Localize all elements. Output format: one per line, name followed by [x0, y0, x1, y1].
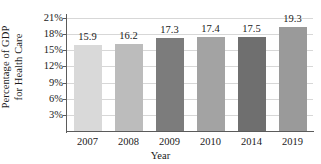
- bar-value-label: 15.9: [68, 32, 108, 43]
- bar: [279, 27, 307, 131]
- gridline: [67, 99, 313, 100]
- y-axis-tickmark: [63, 34, 67, 35]
- y-axis-tick-label: 18%: [33, 29, 63, 40]
- y-axis-tickmark: [63, 83, 67, 84]
- y-axis-tick-label: 6%: [33, 94, 63, 105]
- y-axis-title-line-2: for Health Care: [13, 7, 26, 127]
- bar-value-label: 17.5: [232, 24, 272, 35]
- y-axis-tick-label: 3%: [33, 110, 63, 121]
- y-axis-tickmark: [63, 66, 67, 67]
- x-axis-tick-label: 2010: [191, 136, 231, 147]
- y-axis-title-line-1: Percentage of GDP: [0, 7, 13, 127]
- bar-value-label: 17.4: [191, 24, 231, 35]
- gridline: [67, 83, 313, 84]
- y-axis-tick-label: 12%: [33, 61, 63, 72]
- bar: [74, 45, 102, 131]
- x-axis-tick-label: 2014: [232, 136, 272, 147]
- y-axis-tick-label: 9%: [33, 78, 63, 89]
- y-axis-tick-labels: 3%6%9%12%15%18%21%: [32, 0, 63, 164]
- x-axis-title: Year: [0, 150, 321, 161]
- plot-area: 15.916.217.317.417.519.3: [67, 16, 313, 131]
- gridline: [67, 115, 313, 116]
- bar: [115, 44, 143, 131]
- bar-value-label: 17.3: [150, 25, 190, 36]
- bar: [238, 37, 266, 131]
- bar-value-label: 19.3: [273, 14, 313, 25]
- x-axis-tick-label: 2007: [68, 136, 108, 147]
- bar: [156, 38, 184, 131]
- bar-value-label: 16.2: [109, 31, 149, 42]
- x-axis-tick-label: 2019: [273, 136, 313, 147]
- x-axis-line: [66, 131, 314, 132]
- bar: [197, 37, 225, 131]
- bar-chart-figure: Percentage of GDP for Health Care 3%6%9%…: [0, 0, 321, 164]
- gridline: [67, 66, 313, 67]
- x-axis-tick-label: 2008: [109, 136, 149, 147]
- y-axis-tickmark: [63, 115, 67, 116]
- y-axis-tick-label: 21%: [33, 13, 63, 24]
- y-axis-tickmark: [63, 18, 67, 19]
- x-axis-tick-label: 2009: [150, 136, 190, 147]
- gridline: [67, 50, 313, 51]
- y-axis-tick-label: 15%: [33, 45, 63, 56]
- y-axis-tickmark: [63, 50, 67, 51]
- y-axis-tickmark: [63, 99, 67, 100]
